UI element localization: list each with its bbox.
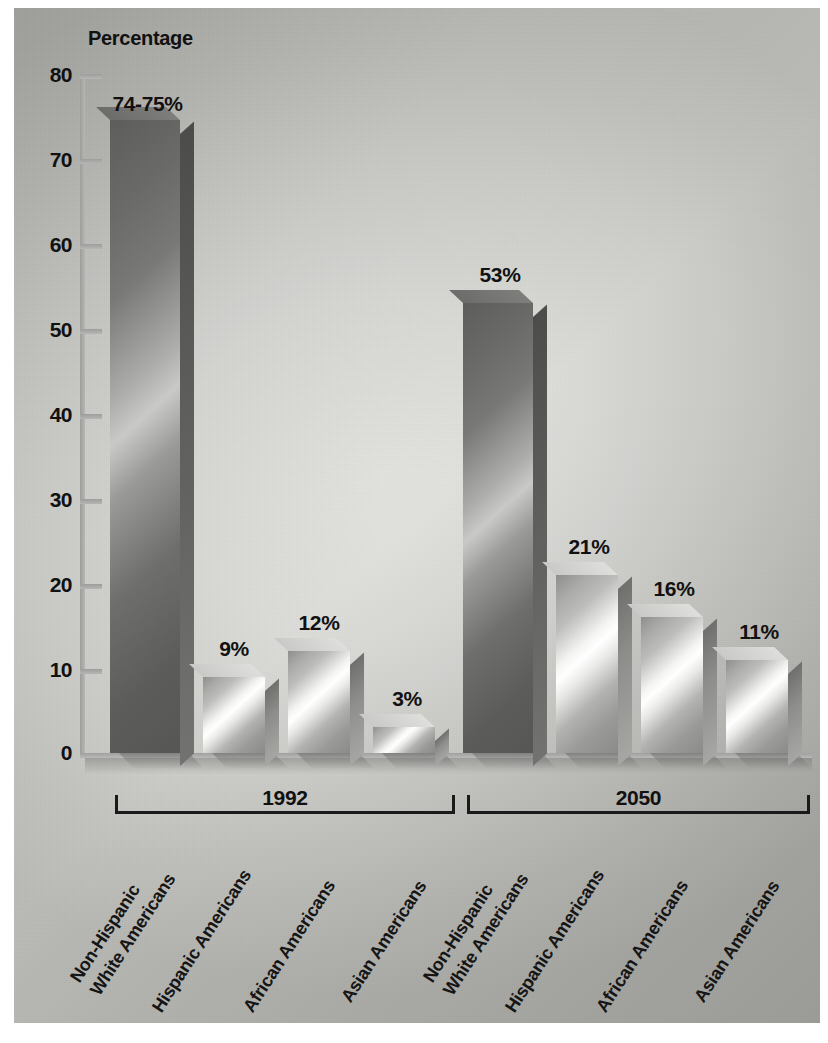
bar-1992-asian-americans[interactable] <box>373 727 435 753</box>
bar-shadow <box>297 753 373 768</box>
y-tick-mark-70 <box>80 159 102 164</box>
bar-1992-non-hispanic-white-americans[interactable] <box>110 120 180 753</box>
category-label-2050-asian-americans: Asian Americans <box>690 877 784 1007</box>
y-tick-label-80: 80 <box>26 63 72 87</box>
bar-shadow <box>735 753 811 768</box>
bar-side-face <box>180 121 194 766</box>
bar-top-face <box>449 290 533 303</box>
bar-shadow <box>212 753 288 768</box>
bar-side-face <box>265 678 279 766</box>
bar-2050-non-hispanic-white-americans[interactable] <box>463 303 533 753</box>
bar-side-face <box>533 304 547 766</box>
bar-2050-asian-americans[interactable] <box>726 660 788 753</box>
y-tick-mark-50 <box>80 329 102 334</box>
group-label-2050: 2050 <box>467 786 810 810</box>
bar-front-face <box>288 651 350 753</box>
bar-front-face <box>463 303 533 753</box>
bar-value-1992-hispanic-americans: 9% <box>193 637 275 661</box>
bar-value-1992-asian-americans: 3% <box>366 687 448 711</box>
bar-side-face <box>703 618 717 766</box>
bar-chart: Percentage 80 70 60 50 40 30 20 10 0 74-… <box>0 0 828 1043</box>
y-tick-label-20: 20 <box>26 573 72 597</box>
chart-image: Percentage 80 70 60 50 40 30 20 10 0 74-… <box>0 0 828 1043</box>
bar-side-face <box>350 652 364 766</box>
y-tick-mark-10 <box>80 669 102 674</box>
y-tick-mark-30 <box>80 499 102 504</box>
category-label-1992-asian-americans: Asian Americans <box>337 877 431 1007</box>
category-label-1992-african-americans: African Americans <box>239 876 340 1016</box>
bar-top-face <box>359 714 435 727</box>
bar-2050-african-americans[interactable] <box>641 617 703 753</box>
bar-1992-hispanic-americans[interactable] <box>203 677 265 753</box>
category-label-2050-african-americans: African Americans <box>592 876 693 1016</box>
bar-value-2050-hispanic-americans: 21% <box>546 535 632 559</box>
bar-shadow <box>650 753 726 768</box>
y-tick-label-0: 0 <box>26 741 72 765</box>
group-label-1992: 1992 <box>115 786 455 810</box>
bar-side-face <box>788 661 802 766</box>
y-tick-label-60: 60 <box>26 233 72 257</box>
bar-value-2050-non-hispanic-white-americans: 53% <box>457 263 543 287</box>
y-tick-label-70: 70 <box>26 148 72 172</box>
bar-top-face <box>542 562 618 575</box>
bar-value-2050-african-americans: 16% <box>631 577 717 601</box>
y-axis-title: Percentage <box>88 27 193 50</box>
bar-top-face <box>189 664 265 677</box>
bar-front-face <box>203 677 265 753</box>
bar-2050-hispanic-americans[interactable] <box>556 575 618 753</box>
bar-front-face <box>373 727 435 753</box>
bar-top-face <box>712 647 788 660</box>
y-tick-label-30: 30 <box>26 488 72 512</box>
bar-1992-african-americans[interactable] <box>288 651 350 753</box>
y-tick-mark-60 <box>80 244 102 249</box>
bar-front-face <box>556 575 618 753</box>
bar-top-face <box>274 638 350 651</box>
bar-front-face <box>726 660 788 753</box>
bar-top-face <box>627 604 703 617</box>
bar-front-face <box>110 120 180 753</box>
y-tick-mark-20 <box>80 584 102 589</box>
bar-shadow <box>382 753 458 768</box>
y-tick-mark-40 <box>80 414 102 419</box>
bar-value-2050-asian-americans: 11% <box>716 620 802 644</box>
y-tick-label-10: 10 <box>26 658 72 682</box>
bar-front-face <box>641 617 703 753</box>
bar-value-1992-african-americans: 12% <box>278 611 360 635</box>
y-tick-label-50: 50 <box>26 318 72 342</box>
y-tick-label-40: 40 <box>26 403 72 427</box>
y-tick-mark-80 <box>80 74 102 79</box>
bar-shadow <box>565 753 641 768</box>
bar-value-1992-non-hispanic-white-americans: 74-75% <box>100 92 195 116</box>
